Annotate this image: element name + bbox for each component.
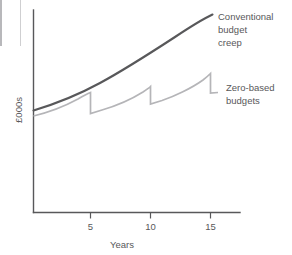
conventional-label-line-3: creep xyxy=(218,37,242,48)
conventional-label-line-1: Conventional xyxy=(218,11,273,22)
series-conventional-budget-creep xyxy=(34,15,213,111)
series-zero-based-budgets xyxy=(34,74,219,117)
tick-label-5: 5 xyxy=(88,221,93,232)
y-axis-title: £000s xyxy=(13,97,24,123)
tick-label-10: 10 xyxy=(145,221,156,232)
zerobased-label-line-2: budgets xyxy=(226,95,260,106)
tick-label-15: 15 xyxy=(205,221,216,232)
chart-figure: 5 10 15 Years £000s Conventional budget … xyxy=(0,0,292,255)
conventional-label-line-2: budget xyxy=(218,24,247,35)
chart-svg: 5 10 15 Years £000s Conventional budget … xyxy=(0,0,292,255)
x-axis-title: Years xyxy=(110,239,134,250)
zerobased-label-line-1: Zero-based xyxy=(226,82,275,93)
